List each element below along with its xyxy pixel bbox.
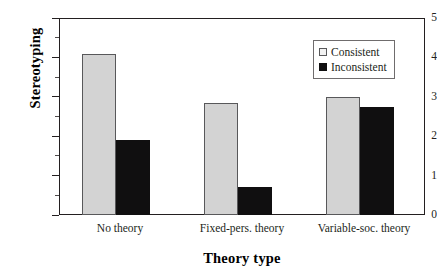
x-axis-title: Theory type <box>59 250 425 266</box>
x-category-label: No theory <box>59 222 181 235</box>
bar-inconsistent <box>116 140 150 215</box>
x-category-label: Fixed-pers. theory <box>181 222 303 235</box>
legend-label-consistent: Consistent <box>331 46 380 58</box>
y-tick-major <box>52 215 59 216</box>
bar-consistent <box>82 54 116 215</box>
x-category-label: Variable-soc. theory <box>303 222 425 235</box>
bar-group <box>204 18 272 215</box>
y-tick-major <box>52 136 59 137</box>
bar-consistent <box>204 103 238 215</box>
bar-inconsistent <box>360 107 394 215</box>
legend-label-inconsistent: Inconsistent <box>331 61 387 73</box>
y-tick-major <box>52 175 59 176</box>
legend-item-inconsistent: Inconsistent <box>319 59 387 74</box>
bar-inconsistent <box>238 187 272 215</box>
legend-swatch-consistent-icon <box>319 48 327 56</box>
y-tick-major <box>52 96 59 97</box>
y-tick-major <box>52 57 59 58</box>
y-axis-title: Stereotyping <box>24 0 46 148</box>
bar-consistent <box>326 97 360 215</box>
chart-legend: Consistent Inconsistent <box>313 40 395 79</box>
legend-swatch-inconsistent-icon <box>319 63 327 71</box>
y-tick-major <box>52 18 59 19</box>
bar-chart-figure: Stereotyping 012345 No theoryFixed-pers.… <box>0 0 437 277</box>
legend-item-consistent: Consistent <box>319 44 387 59</box>
bar-group <box>82 18 150 215</box>
